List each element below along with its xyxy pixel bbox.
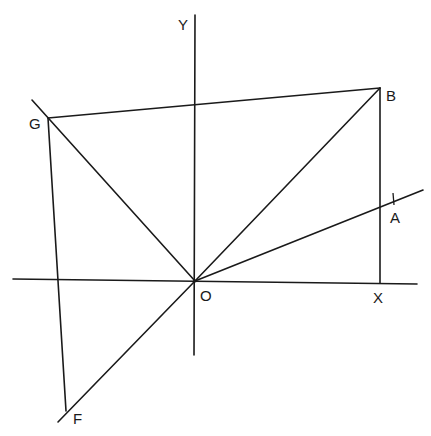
x-axis	[13, 279, 417, 284]
label-g: G	[29, 116, 41, 131]
origin-point	[193, 279, 196, 282]
y-axis	[194, 15, 195, 355]
label-x: X	[373, 290, 383, 305]
ray-oa	[195, 190, 423, 281]
tick-a	[393, 193, 394, 205]
label-o: O	[200, 288, 212, 303]
segment-ob	[195, 88, 380, 281]
label-b: B	[386, 88, 396, 103]
label-a: A	[390, 210, 400, 225]
segment-gf	[48, 118, 66, 411]
label-f: F	[73, 411, 82, 426]
segment-of-extended	[58, 281, 195, 422]
geometry-diagram	[0, 0, 431, 436]
label-y: Y	[178, 17, 188, 32]
segment-gb	[48, 88, 380, 118]
